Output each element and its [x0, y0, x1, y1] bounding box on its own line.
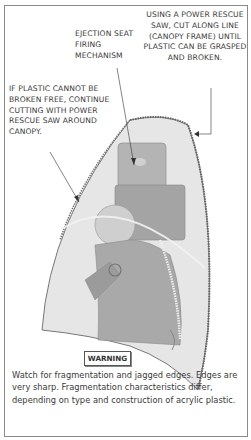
callout-continue-cutting: IF PLASTIC CANNOT BE BROKEN FREE, CONTIN… [9, 84, 129, 138]
warning-text: Watch for fragmentation and jagged edges… [12, 369, 248, 406]
callout-saw-cut: USING A POWER RESCUE SAW, CUT ALONG LINE… [140, 10, 250, 64]
leader-saw [196, 88, 211, 134]
pilot-body [95, 240, 181, 345]
leader-continue [50, 152, 79, 202]
pilot-helmet [95, 205, 135, 245]
callout-ejection-seat: EJECTION SEAT FIRING MECHANISM [75, 29, 135, 61]
warning-label: WARNING [84, 351, 131, 366]
